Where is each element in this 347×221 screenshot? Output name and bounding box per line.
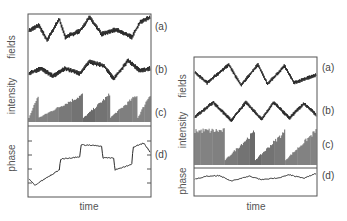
- right-label-a: (a): [322, 62, 334, 73]
- left-label-d: (d): [155, 149, 167, 160]
- right-ylabel-phase: phase: [177, 167, 188, 195]
- right-label-b: (b): [322, 105, 334, 116]
- left-trace-d: [29, 143, 150, 185]
- right-trace-c: [195, 128, 316, 165]
- right-label-d: (d): [322, 170, 334, 181]
- right-trace-b: [195, 101, 316, 122]
- right-xlabel-time: time: [247, 201, 266, 212]
- right-panel: fields intensity phase (a) (b) (c) (d) t…: [177, 57, 334, 212]
- left-ylabel-phase: phase: [6, 144, 17, 172]
- right-label-c: (c): [322, 139, 334, 150]
- left-xlabel-time: time: [80, 201, 99, 212]
- left-trace-b: [29, 59, 150, 80]
- left-label-c: (c): [155, 107, 167, 118]
- figure-canvas: fields intensity phase (a) (b) (c) (d) t…: [0, 0, 347, 221]
- right-trace-d: [195, 174, 316, 181]
- right-ylabel-intensity: intensity: [177, 112, 188, 149]
- left-panel: fields intensity phase (a) (b) (c) (d) t…: [6, 14, 167, 212]
- left-trace-c: [29, 94, 150, 123]
- left-label-a: (a): [155, 21, 167, 32]
- left-phase-ticks: [28, 141, 151, 183]
- figure: fields intensity phase (a) (b) (c) (d) t…: [0, 0, 347, 221]
- left-ylabel-fields: fields: [6, 35, 17, 58]
- left-label-b: (b): [155, 64, 167, 75]
- left-trace-a: [29, 16, 150, 42]
- right-ylabel-fields: fields: [177, 74, 188, 97]
- right-trace-a: [195, 63, 316, 86]
- left-ylabel-intensity: intensity: [6, 78, 17, 115]
